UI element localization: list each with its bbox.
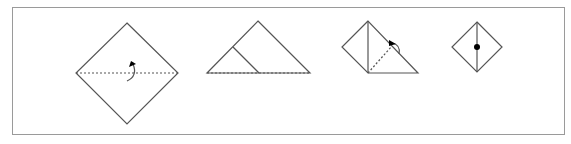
step-2-triangle — [207, 21, 310, 73]
crease-line — [233, 47, 259, 73]
step-3-shape — [342, 21, 418, 73]
valley-fold-line — [368, 47, 391, 73]
step-1-diamond — [76, 23, 178, 124]
step-4-diamond — [452, 22, 502, 72]
origami-diagram — [0, 0, 571, 144]
center-dot-icon — [474, 44, 480, 50]
